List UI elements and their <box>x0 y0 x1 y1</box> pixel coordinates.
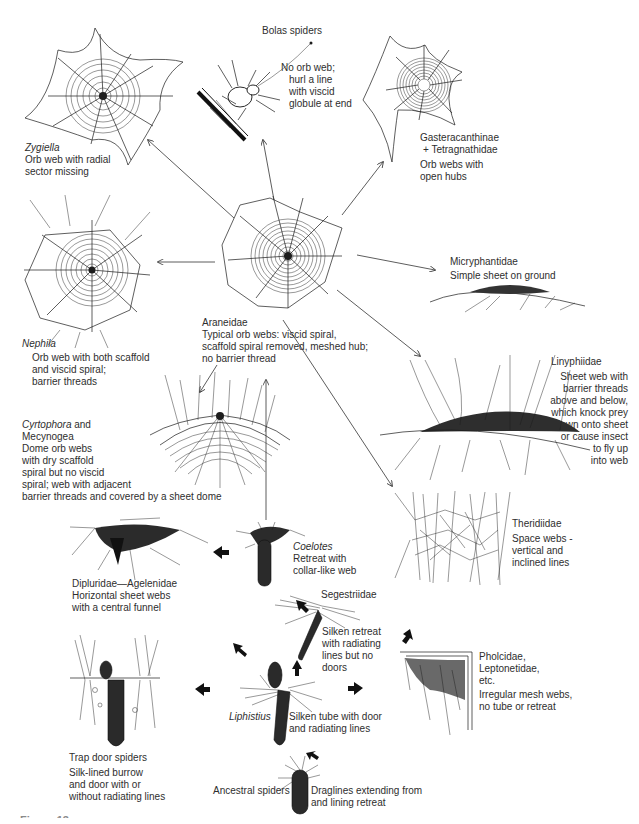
zygiella-label: Zygiella Orb web with radial sector miss… <box>25 142 111 178</box>
trapdoor-burrow-illustration <box>70 635 160 746</box>
node-name: Zygiella <box>25 142 111 154</box>
cyrtophora-label: Cyrtophora and Mecynogea Dome orb webs w… <box>22 419 222 503</box>
segestriidae-name-label: Segestriidae <box>321 589 377 601</box>
ancestral-name-label: Ancestral spiders <box>213 785 290 797</box>
theridiidae-label: Theridiidae Space webs - vertical and in… <box>512 518 573 569</box>
micryphantidae-sheet-illustration <box>430 285 585 312</box>
pholcidae-mesh-illustration <box>400 652 472 735</box>
gasteracanthinae-label: Gasteracanthinae + Tetragnathidae Orb we… <box>420 132 499 183</box>
liphistius-name-label: Liphistius <box>229 711 271 723</box>
linyphiidae-name-label: Linyphiidae <box>551 356 602 368</box>
ancestral-desc-label: Draglines extending from and lining retr… <box>311 785 422 809</box>
coelotes-label: Coelotes Retreat with collar-like web <box>293 541 356 577</box>
bolas-desc-label: No orb web; hurl a line with viscid glob… <box>281 62 352 110</box>
theridiidae-space-web-illustration <box>395 491 510 585</box>
araneidae-label: Araneidae Typical orb webs: viscid spira… <box>202 317 368 365</box>
dipluridae-label: Dipluridae—Agelenidae Horizontal sheet w… <box>72 578 177 614</box>
araneidae-web-illustration <box>222 196 342 308</box>
nephila-label: Nephila Orb web with both scaffold and v… <box>22 338 150 388</box>
pholcidae-label: Pholcidae, Leptonetidae, etc. Irregular … <box>479 651 572 713</box>
segestriidae-desc-label: Silken retreat with radiating lines but … <box>322 626 381 674</box>
liphistius-desc-label: Silken tube with door and radiating line… <box>289 711 382 735</box>
nephila-web-illustration <box>24 195 150 348</box>
trapdoor-label: Trap door spiders Silk-lined burrow and … <box>69 752 165 803</box>
figure-caption-partial: Figure 13 <box>20 808 69 818</box>
micryphantidae-label: Micryphantidae Simple sheet on ground <box>450 256 556 282</box>
dipluridae-funnel-illustration <box>70 518 208 580</box>
linyphiidae-desc-label: Sheet web with barrier threads above and… <box>550 371 628 467</box>
bolas-name-label: Bolas spiders <box>262 25 322 37</box>
